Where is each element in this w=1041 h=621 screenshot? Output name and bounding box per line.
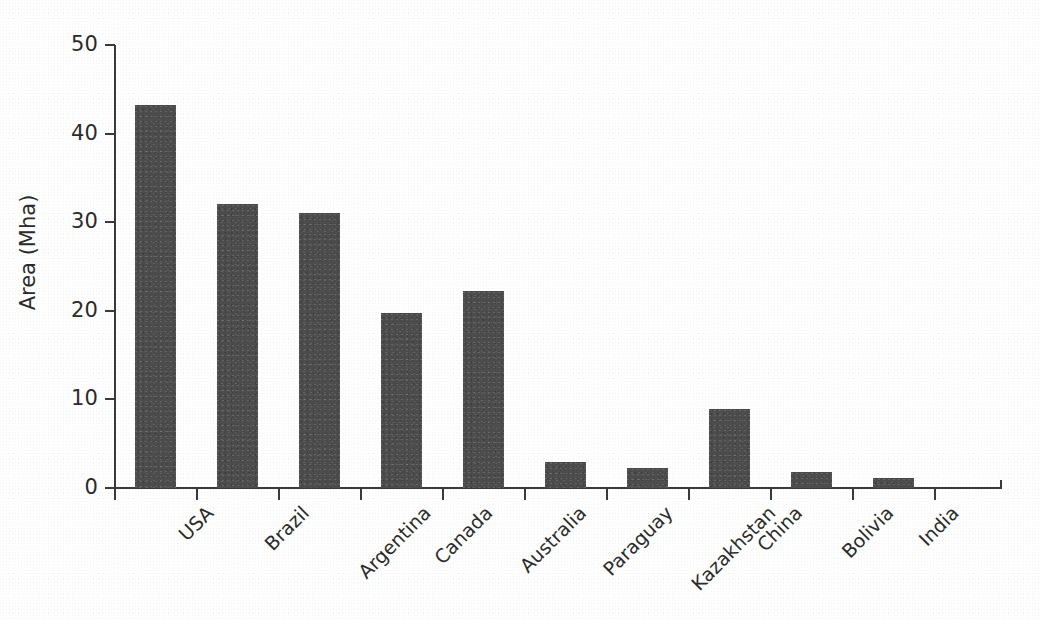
- x-axis-category-label: Australia: [516, 503, 589, 576]
- y-axis-tick-label-wrap: 20: [42, 300, 98, 321]
- y-axis-line: [114, 45, 116, 489]
- bar: [381, 313, 422, 488]
- x-axis-category-label-text: Brazil: [261, 503, 312, 554]
- y-axis-title: Area (Mha): [18, 173, 39, 333]
- x-axis-category-label-text: Australia: [516, 503, 589, 576]
- y-axis-tick: [105, 44, 115, 46]
- bar: [791, 472, 832, 488]
- x-axis-tick: [196, 489, 198, 500]
- x-axis-category-label-text: Canada: [431, 503, 496, 568]
- y-axis-tick-label: 20: [52, 300, 98, 321]
- y-axis-tick-label: 0: [52, 477, 98, 498]
- y-axis-tick-label-wrap: 0: [42, 477, 98, 498]
- y-axis-tick-label: 40: [52, 123, 98, 144]
- x-axis-tick: [114, 489, 116, 500]
- x-axis-tick: [770, 489, 772, 500]
- x-axis-category-label: Brazil: [261, 503, 312, 554]
- x-axis-category-label: Bolivia: [838, 503, 896, 561]
- bar: [299, 213, 340, 488]
- x-axis-category-label: Canada: [431, 503, 496, 568]
- bar: [463, 291, 504, 488]
- y-axis-tick: [105, 310, 115, 312]
- x-axis-tick: [852, 489, 854, 500]
- x-axis-category-label: Paraguay: [599, 503, 675, 579]
- x-axis-tick: [606, 489, 608, 500]
- x-axis-tick: [278, 489, 280, 500]
- x-axis-category-label-text: Bolivia: [838, 503, 896, 561]
- y-axis-tick-label: 50: [52, 34, 98, 55]
- y-axis-tick-label-wrap: 50: [42, 34, 98, 55]
- x-axis-tick: [442, 489, 444, 500]
- y-axis-tick-label: 30: [52, 211, 98, 232]
- x-axis-category-label: Argentina: [355, 503, 434, 582]
- x-axis-tick: [934, 489, 936, 500]
- x-axis-category-label-text: Paraguay: [599, 503, 675, 579]
- y-axis-tick: [105, 221, 115, 223]
- x-axis-category-label-text: Argentina: [355, 503, 434, 582]
- bar: [709, 409, 750, 488]
- bar: [873, 478, 914, 488]
- bar: [627, 468, 668, 488]
- y-axis-tick-label-wrap: 10: [42, 388, 98, 409]
- bar-chart-figure: Area (Mha) 01020304050USABrazilArgentina…: [0, 0, 1041, 621]
- y-axis-tick: [105, 398, 115, 400]
- x-axis-tick: [360, 489, 362, 500]
- y-axis-tick: [105, 133, 115, 135]
- plot-area: Area (Mha) 01020304050USABrazilArgentina…: [0, 0, 1041, 621]
- x-axis-tick: [688, 489, 690, 500]
- x-axis-tick: [524, 489, 526, 500]
- x-axis-category-label-text: USA: [175, 503, 216, 544]
- x-axis-category-label: USA: [175, 503, 216, 544]
- y-axis-tick-label-wrap: 40: [42, 123, 98, 144]
- bar: [135, 105, 176, 488]
- x-axis-end-cap: [1000, 480, 1002, 489]
- x-axis-category-label-text: India: [915, 503, 961, 549]
- bar: [545, 462, 586, 488]
- x-axis-category-label: India: [915, 503, 961, 549]
- y-axis-tick-label-wrap: 30: [42, 211, 98, 232]
- bar: [217, 204, 258, 488]
- y-axis-tick-label: 10: [52, 388, 98, 409]
